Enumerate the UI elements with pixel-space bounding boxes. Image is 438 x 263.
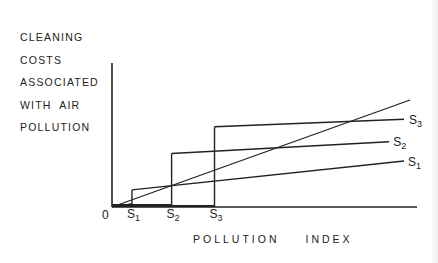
curve-label-s3: S3 <box>409 113 422 129</box>
origin-label: 0 <box>102 208 109 222</box>
curve-label-s1: S1 <box>408 155 421 171</box>
series-line-s2 <box>172 142 390 154</box>
diagram-plot: S3S2S10S1S2S3 <box>0 0 438 263</box>
plot-marks <box>112 100 410 207</box>
series-line-diagonal <box>112 100 410 207</box>
x-tick-label-s3: S3 <box>210 207 223 223</box>
x-tick-label-s1: S1 <box>127 207 140 223</box>
series-line-s1 <box>132 161 404 190</box>
x-tick-label-s2: S2 <box>167 207 180 223</box>
diagram-page: CLEANING COSTS ASSOCIATED WITH AIR POLLU… <box>0 0 438 263</box>
axes <box>112 63 417 207</box>
thick-axis-segment <box>172 205 215 207</box>
curve-label-s2: S2 <box>393 135 406 151</box>
series-line-s3 <box>215 119 405 126</box>
